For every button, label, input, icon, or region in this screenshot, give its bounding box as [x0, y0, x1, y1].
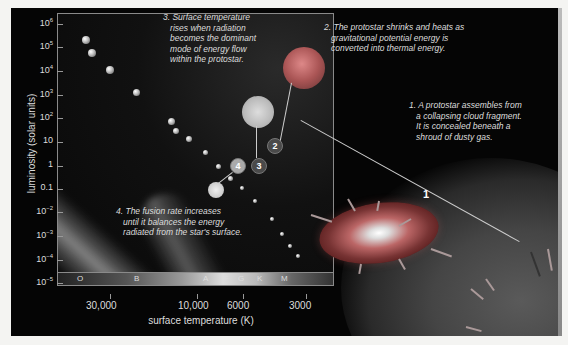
- star-dot: [173, 128, 179, 134]
- y-tick: 10−3: [13, 229, 53, 240]
- spectral-class-g: G: [238, 273, 244, 285]
- y-tick: 103: [13, 88, 53, 99]
- y-tickmark: [57, 166, 63, 167]
- x-tickmark: [243, 294, 244, 299]
- star-dot: [288, 244, 292, 248]
- x-tick: 3000: [289, 300, 311, 311]
- spectral-class-f: F: [224, 273, 229, 285]
- step-badge-1: 1: [423, 188, 429, 200]
- leader-line-3: [256, 126, 257, 158]
- star-dot: [228, 176, 233, 181]
- star-dot: [203, 150, 208, 155]
- y-tickmark: [57, 260, 63, 261]
- star-dot: [82, 36, 90, 44]
- star-dot: [240, 186, 244, 190]
- x-tick: 6000: [227, 300, 249, 311]
- note-step-4: 4. The fusion rate increases until it ba…: [116, 206, 242, 238]
- star-dot: [270, 217, 274, 221]
- y-tick: 105: [13, 40, 53, 51]
- star-dot: [253, 199, 257, 203]
- spectral-class-b: B: [134, 273, 139, 285]
- y-tick: 1: [13, 159, 53, 169]
- spectral-class-k: K: [257, 273, 262, 285]
- y-tick: 10−4: [13, 253, 53, 264]
- y-tickmark: [57, 47, 63, 48]
- y-tick: 10−5: [13, 276, 53, 287]
- y-tickmark: [57, 24, 63, 25]
- protostar-sphere-medium: [242, 96, 274, 128]
- spectral-class-a: A: [203, 273, 208, 285]
- x-axis-label: surface temperature (K): [91, 315, 311, 326]
- note-step-3: 3. Surface temperature rises when radiat…: [163, 12, 256, 65]
- step-badge-4: 4: [230, 158, 246, 174]
- y-tick: 0.1: [13, 182, 53, 192]
- x-tickmark: [110, 294, 111, 299]
- x-tick: 30,000: [86, 300, 117, 311]
- note-step-1: 1. A protostar assembles from a collapsi…: [409, 100, 522, 142]
- y-tickmark: [57, 189, 63, 190]
- y-tickmark: [57, 118, 63, 119]
- y-tickmark: [57, 142, 63, 143]
- y-tick: 10: [13, 135, 53, 145]
- y-tick: 102: [13, 111, 53, 122]
- spectral-class-m: M: [281, 273, 288, 285]
- x-tick: 10,000: [178, 300, 209, 311]
- x-tickmark: [197, 294, 198, 299]
- star-dot: [88, 49, 96, 57]
- y-tickmark: [57, 71, 63, 72]
- protostar-sphere-large: [283, 47, 325, 89]
- y-tick: 104: [13, 64, 53, 75]
- note-step-2: 2. The protostar shrinks and heats as gr…: [324, 22, 464, 54]
- y-tickmark: [57, 236, 63, 237]
- y-tickmark: [57, 212, 63, 213]
- figure-frame: luminosity (solar units) 106 105 104 103…: [11, 8, 562, 336]
- spectral-class-bar: O B A F G K M: [58, 272, 333, 285]
- star-dot: [296, 254, 300, 258]
- frame-edge: [558, 8, 562, 336]
- star-dot: [133, 89, 140, 96]
- x-tickmark: [306, 294, 307, 299]
- step-badge-2: 2: [267, 138, 283, 154]
- y-tickmark: [57, 95, 63, 96]
- y-tickmark: [57, 283, 63, 284]
- star-dot: [168, 118, 175, 125]
- main-sequence-star: [208, 182, 224, 198]
- star-dot: [106, 66, 114, 74]
- y-tick: 10−2: [13, 205, 53, 216]
- step-badge-3: 3: [251, 158, 267, 174]
- y-tick: 106: [13, 17, 53, 28]
- spectral-class-o: O: [77, 273, 83, 285]
- star-dot: [186, 136, 192, 142]
- star-dot: [280, 232, 284, 236]
- star-dot: [216, 164, 221, 169]
